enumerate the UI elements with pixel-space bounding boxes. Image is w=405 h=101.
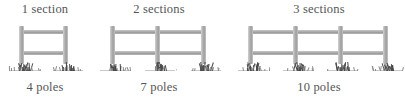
fence-1-drawing <box>4 26 86 72</box>
grass-tuft <box>236 62 270 71</box>
grass-tuft <box>98 62 132 71</box>
fence-rail-top <box>248 30 388 34</box>
grass-blade <box>176 69 177 71</box>
fence-post <box>201 26 206 64</box>
fence-post <box>110 26 115 64</box>
grass-blade <box>127 67 129 71</box>
fence-group-3: 3 sections 10 poles <box>243 0 395 101</box>
grass-blade <box>357 69 358 71</box>
grass-blade <box>71 65 72 71</box>
grass-blade <box>165 65 167 71</box>
grass-blade <box>158 69 159 71</box>
grass-blade <box>80 69 81 71</box>
grass-blade <box>112 68 113 71</box>
fence-post <box>155 26 160 64</box>
grass-tuft <box>143 62 177 71</box>
grass-blade <box>59 67 61 71</box>
grass-blade <box>375 69 376 71</box>
grass-blade <box>29 63 30 71</box>
fence-post <box>338 26 343 64</box>
grass-blade <box>120 64 121 71</box>
grass-tuft <box>7 62 41 71</box>
grass-blade <box>312 68 313 71</box>
grass-blade <box>242 67 244 71</box>
grass-tuft <box>51 62 85 71</box>
fence-group-1: 1 section 4 poles <box>4 0 86 101</box>
fence-3-top-label: 3 sections <box>243 2 395 17</box>
fence-post <box>248 26 253 64</box>
fence-group-2: 2 sections 7 poles <box>104 0 214 101</box>
grass-blade <box>73 67 75 71</box>
fence-2-bottom-label: 7 poles <box>104 80 214 95</box>
fence-post <box>293 26 298 64</box>
grass-blade <box>9 66 10 71</box>
fence-post <box>63 26 68 64</box>
fence-3-bottom-label: 10 poles <box>243 80 395 95</box>
fence-post <box>19 26 24 64</box>
fence-rail-bottom <box>248 51 388 55</box>
fence-1-bottom-label: 4 poles <box>4 80 86 95</box>
grass-tuft <box>189 62 223 71</box>
grass-blade <box>14 67 15 71</box>
fence-rail-top <box>19 30 68 34</box>
grass-tuft <box>371 62 405 71</box>
fence-1-top-label: 1 section <box>4 2 86 17</box>
grass-blade <box>116 68 118 71</box>
fence-3-drawing <box>243 26 395 72</box>
fence-post <box>383 26 388 64</box>
grass-blade <box>130 67 131 71</box>
grass-tuft <box>281 62 315 71</box>
grass-blade <box>353 67 355 71</box>
grass-blade <box>247 68 248 71</box>
grass-blade <box>402 67 404 71</box>
grass-blade <box>269 67 270 71</box>
grass-tuft <box>326 62 360 71</box>
grass-blade <box>11 68 12 71</box>
grass-blade <box>40 69 41 71</box>
fence-2-top-label: 2 sections <box>104 2 214 17</box>
grass-blade <box>31 67 33 71</box>
fence-rail-bottom <box>19 51 68 55</box>
fence-2-drawing <box>104 26 214 72</box>
grass-blade <box>77 67 79 71</box>
